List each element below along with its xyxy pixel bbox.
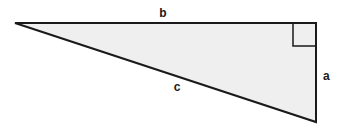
label-side-b: b bbox=[159, 6, 166, 20]
triangle-shape bbox=[15, 23, 316, 122]
label-side-a: a bbox=[323, 69, 330, 83]
label-hypotenuse-c: c bbox=[174, 80, 181, 94]
right-triangle-diagram: b a c bbox=[0, 0, 344, 130]
